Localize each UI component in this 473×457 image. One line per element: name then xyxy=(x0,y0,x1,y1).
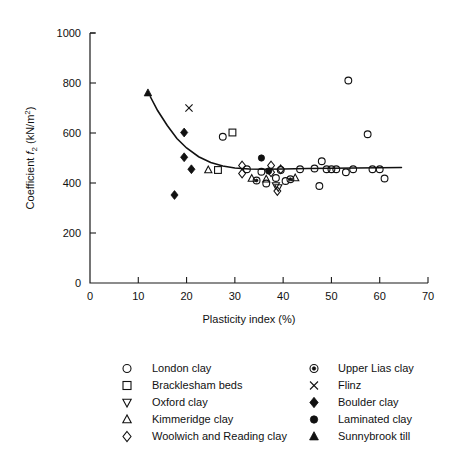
legend-label: Sunnybrook till xyxy=(338,430,410,442)
y-tick-label: 600 xyxy=(63,127,81,139)
legend-label: Woolwich and Reading clay xyxy=(152,430,287,442)
marker-dotted-circle-center xyxy=(312,367,315,370)
y-tick-label: 400 xyxy=(63,177,81,189)
legend-column-left: London clayBracklesham bedsOxford clayKi… xyxy=(123,362,288,442)
series-flinz xyxy=(185,104,192,111)
scatter-chart: 02004006008001000010203040506070 Plastic… xyxy=(0,0,473,457)
series-boulder-clay xyxy=(171,128,195,199)
axis-labels: Plasticity index (%)Coefficient f2 (kN/m… xyxy=(23,107,295,325)
y-tick-label: 1000 xyxy=(57,27,81,39)
data-point-open-up-triangle xyxy=(205,166,212,173)
legend-marker-filled-triangle xyxy=(310,432,319,440)
series-sunnybrook-till xyxy=(144,89,151,96)
x-tick-label: 20 xyxy=(180,290,192,302)
x-tick-label: 30 xyxy=(229,290,241,302)
legend-item[interactable]: Sunnybrook till xyxy=(310,430,411,442)
y-axis-title: Coefficient f2 (kN/m2) xyxy=(23,107,39,210)
data-point-filled-circle xyxy=(266,168,272,174)
data-point-open-circle xyxy=(333,166,340,173)
legend-item[interactable]: Kimmeridge clay xyxy=(123,413,234,425)
legend-label: Bracklesham beds xyxy=(152,379,243,391)
y-tick-label: 800 xyxy=(63,77,81,89)
data-point-open-circle xyxy=(318,158,325,165)
data-point-open-circle xyxy=(273,175,280,182)
data-point-open-circle xyxy=(345,77,352,84)
data-point-filled-diamond xyxy=(171,191,178,200)
legend-item[interactable]: Flinz xyxy=(310,379,361,391)
data-point-filled-diamond xyxy=(181,128,188,137)
data-point-filled-diamond xyxy=(181,153,188,162)
y-tick-label: 200 xyxy=(63,227,81,239)
data-point-filled-circle xyxy=(258,155,264,161)
data-point-filled-diamond xyxy=(188,165,195,174)
data-point-open-circle xyxy=(364,131,371,138)
x-tick-label: 40 xyxy=(277,290,289,302)
legend-marker-filled-circle xyxy=(310,416,317,423)
x-tick-label: 0 xyxy=(87,290,93,302)
legend-marker-open-diamond xyxy=(123,432,131,442)
legend-item[interactable]: Bracklesham beds xyxy=(123,379,243,391)
chart-legend: London clayBracklesham bedsOxford clayKi… xyxy=(123,362,415,442)
legend-item[interactable]: Oxford clay xyxy=(123,396,208,408)
x-tick-label: 10 xyxy=(132,290,144,302)
x-tick-label: 50 xyxy=(325,290,337,302)
data-point-open-circle xyxy=(350,166,357,173)
legend-item[interactable]: Laminated clay xyxy=(310,413,412,425)
data-point-open-circle xyxy=(381,175,388,182)
legend-marker-filled-diamond xyxy=(310,397,318,407)
legend-item[interactable]: Boulder clay xyxy=(310,396,399,408)
legend-label: London clay xyxy=(152,362,212,374)
legend-marker-open-square xyxy=(123,382,131,390)
data-point-open-circle xyxy=(263,180,270,187)
data-point-open-circle xyxy=(316,183,323,190)
data-point-open-square xyxy=(215,167,222,174)
y-tick-label: 0 xyxy=(75,277,81,289)
marker-dotted-circle-center xyxy=(255,179,258,182)
legend-label: Oxford clay xyxy=(152,396,208,408)
legend-label: Laminated clay xyxy=(338,413,412,425)
data-points xyxy=(144,77,388,199)
legend-item[interactable]: Woolwich and Reading clay xyxy=(123,430,287,442)
data-point-open-square xyxy=(229,129,236,136)
legend-label: Boulder clay xyxy=(338,396,399,408)
data-point-open-up-triangle xyxy=(263,175,270,182)
legend-item[interactable]: London clay xyxy=(123,362,212,374)
data-point-filled-triangle xyxy=(144,89,151,96)
data-point-open-circle xyxy=(343,169,350,176)
legend-label: Flinz xyxy=(338,379,361,391)
legend-marker-open-up-triangle xyxy=(123,415,131,423)
x-axis-title: Plasticity index (%) xyxy=(203,313,296,325)
data-point-open-circle xyxy=(219,133,226,140)
legend-label: Upper Lias clay xyxy=(338,362,414,374)
x-tick-label: 60 xyxy=(374,290,386,302)
x-tick-label: 70 xyxy=(422,290,434,302)
data-point-open-circle xyxy=(369,166,376,173)
marker-dotted-circle-center xyxy=(289,178,292,181)
legend-label: Kimmeridge clay xyxy=(152,413,234,425)
legend-marker-open-down-triangle xyxy=(123,399,131,407)
legend-marker-open-circle xyxy=(123,365,131,373)
legend-column-right: Upper Lias clayFlinzBoulder clayLaminate… xyxy=(310,362,415,442)
legend-item[interactable]: Upper Lias clay xyxy=(310,362,414,374)
data-point-open-circle xyxy=(376,166,383,173)
figure-container: 02004006008001000010203040506070 Plastic… xyxy=(0,0,473,457)
